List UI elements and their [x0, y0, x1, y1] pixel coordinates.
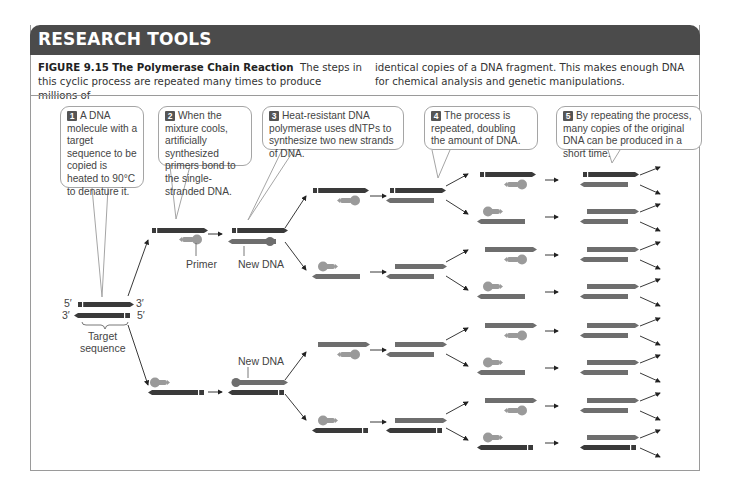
- step-3-badge: 3: [269, 111, 279, 121]
- label-new-dna-top: New DNA: [238, 258, 284, 270]
- target-dna: [74, 302, 134, 329]
- step-4-text: The process is repeated, doubling the am…: [431, 110, 520, 146]
- label-target: Target: [88, 330, 117, 342]
- label-new-dna-bottom: New DNA: [238, 355, 284, 367]
- pcr-diagram: [0, 0, 750, 500]
- step-4-badge: 4: [431, 111, 441, 121]
- step-5-callout: 5By repeating the process, many copies o…: [556, 106, 702, 150]
- label-3prime-bottom: 3′: [62, 309, 70, 321]
- step-1-badge: 1: [67, 111, 77, 121]
- label-3prime-top: 3′: [136, 297, 144, 309]
- arrows: [128, 174, 468, 440]
- label-5prime-top: 5′: [64, 297, 72, 309]
- label-primer: Primer: [186, 258, 217, 270]
- step-4-callout: 4The process is repeated, doubling the a…: [424, 106, 538, 150]
- step-2-callout: 2When the mixture cools, artificially sy…: [158, 106, 252, 166]
- step-5-badge: 5: [563, 111, 573, 121]
- label-5prime-bottom: 5′: [137, 309, 145, 321]
- label-sequence: sequence: [80, 342, 126, 354]
- step-2-badge: 2: [165, 111, 175, 121]
- step-1-callout: 1A DNA molecule with a target sequence t…: [60, 106, 144, 188]
- step-1-text: A DNA molecule with a target sequence to…: [67, 110, 137, 197]
- step-3-callout: 3Heat-resistant DNA polymerase uses dNTP…: [262, 106, 404, 150]
